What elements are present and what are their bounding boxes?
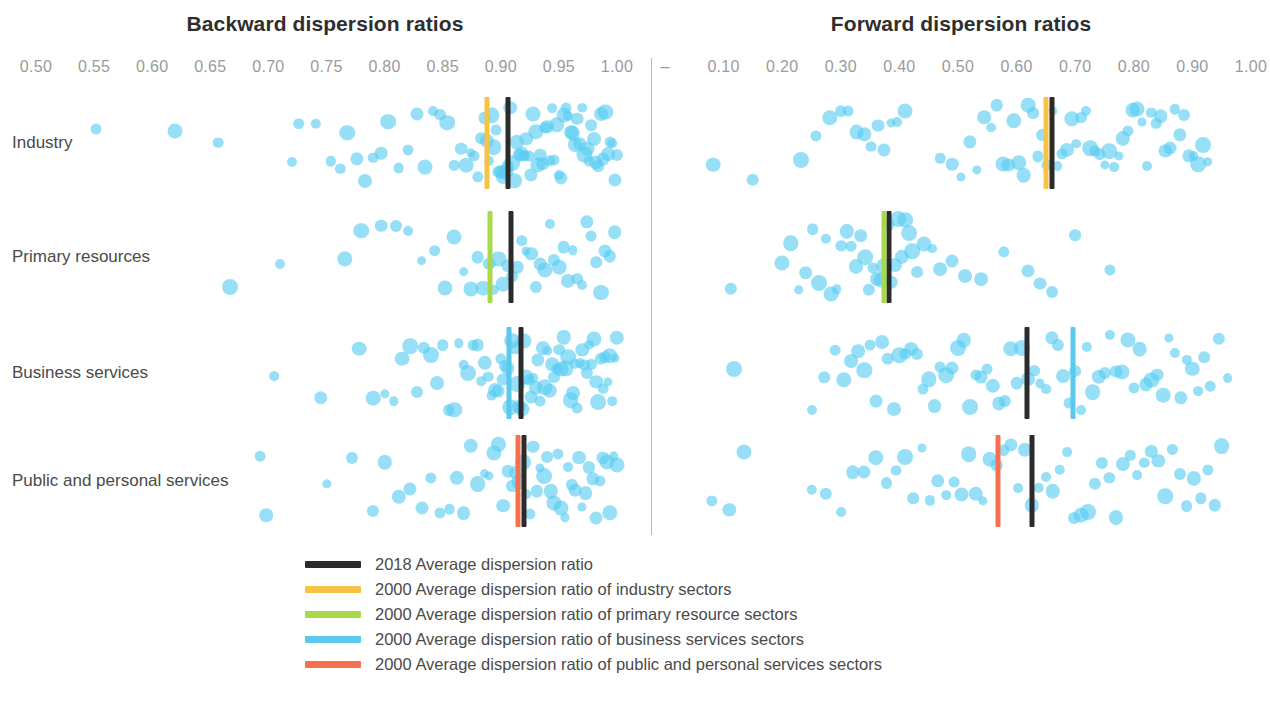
data-point bbox=[572, 451, 586, 465]
data-point bbox=[886, 118, 895, 127]
axis-tick: 0.75 bbox=[310, 58, 342, 76]
data-point bbox=[1021, 98, 1036, 113]
data-point bbox=[255, 451, 266, 462]
data-point bbox=[314, 391, 328, 405]
data-point bbox=[534, 258, 547, 271]
data-point bbox=[568, 246, 577, 255]
data-point bbox=[517, 333, 532, 348]
data-point bbox=[881, 218, 894, 231]
data-point bbox=[1074, 508, 1089, 523]
data-point bbox=[551, 363, 562, 374]
data-point bbox=[496, 499, 510, 513]
data-point bbox=[1203, 157, 1212, 166]
data-point bbox=[1057, 369, 1071, 383]
data-point bbox=[917, 384, 928, 395]
data-point bbox=[423, 347, 439, 363]
data-point bbox=[1064, 111, 1079, 126]
data-point bbox=[411, 107, 424, 120]
data-point bbox=[496, 277, 511, 292]
data-point bbox=[470, 477, 486, 493]
data-point bbox=[476, 281, 491, 296]
data-point bbox=[577, 147, 592, 162]
data-point bbox=[1158, 488, 1174, 504]
data-point bbox=[1182, 149, 1195, 162]
data-point bbox=[950, 340, 966, 356]
data-point bbox=[1018, 443, 1032, 457]
data-point bbox=[598, 383, 609, 394]
data-point bbox=[1069, 229, 1081, 241]
data-point bbox=[497, 373, 510, 386]
data-point bbox=[963, 135, 976, 148]
data-point bbox=[513, 148, 526, 161]
data-point bbox=[526, 107, 541, 122]
data-point bbox=[501, 160, 514, 173]
data-point bbox=[563, 462, 573, 472]
data-point bbox=[986, 379, 1000, 393]
data-point bbox=[968, 487, 982, 501]
data-point bbox=[858, 128, 871, 141]
data-point bbox=[865, 339, 876, 350]
data-point bbox=[528, 124, 543, 139]
data-point bbox=[556, 330, 571, 345]
data-point bbox=[956, 172, 965, 181]
data-point bbox=[523, 150, 534, 161]
data-point bbox=[1080, 505, 1096, 521]
data-point bbox=[866, 141, 877, 152]
data-point bbox=[1170, 104, 1180, 114]
legend-label: 2000 Average dispersion ratio of primary… bbox=[375, 605, 798, 624]
data-point bbox=[539, 122, 551, 134]
data-point bbox=[489, 285, 499, 295]
data-point bbox=[1146, 108, 1156, 118]
data-point bbox=[577, 280, 587, 290]
data-point bbox=[375, 219, 388, 232]
data-point bbox=[793, 152, 809, 168]
data-point bbox=[1013, 483, 1023, 493]
data-point bbox=[476, 376, 486, 386]
data-point bbox=[1151, 118, 1162, 129]
data-point bbox=[1139, 378, 1152, 391]
data-point bbox=[890, 465, 901, 476]
data-point bbox=[486, 390, 497, 401]
data-point bbox=[507, 270, 519, 282]
data-point bbox=[1189, 151, 1199, 161]
data-point bbox=[484, 156, 494, 166]
data-point bbox=[1181, 355, 1191, 365]
data-point bbox=[888, 258, 902, 272]
data-point bbox=[544, 484, 558, 498]
data-point bbox=[1120, 332, 1135, 347]
data-point bbox=[403, 226, 413, 236]
row-label-public-and-personal-services: Public and personal services bbox=[12, 471, 228, 491]
data-point bbox=[1137, 118, 1146, 127]
data-point bbox=[572, 403, 583, 414]
chart-root: Backward dispersion ratios Forward dispe… bbox=[0, 0, 1270, 701]
data-point bbox=[806, 405, 816, 415]
average-marker-black bbox=[522, 435, 527, 527]
data-point bbox=[404, 482, 417, 495]
data-point bbox=[488, 384, 502, 398]
data-point bbox=[447, 230, 462, 245]
data-point bbox=[447, 402, 462, 417]
data-point bbox=[589, 156, 602, 169]
data-point bbox=[583, 461, 595, 473]
data-point bbox=[554, 362, 569, 377]
legend-label: 2000 Average dispersion ratio of industr… bbox=[375, 580, 731, 599]
data-point bbox=[581, 367, 593, 379]
data-point bbox=[443, 405, 455, 417]
data-point bbox=[1156, 388, 1171, 403]
data-point bbox=[608, 226, 622, 240]
data-point bbox=[575, 343, 588, 356]
axis-tick: 0.85 bbox=[427, 58, 459, 76]
data-point bbox=[1075, 112, 1087, 124]
data-point bbox=[890, 212, 906, 228]
data-point bbox=[584, 340, 594, 350]
data-point bbox=[545, 219, 555, 229]
data-point bbox=[536, 463, 545, 472]
data-point bbox=[435, 508, 446, 519]
data-point bbox=[935, 361, 946, 372]
data-point bbox=[269, 371, 279, 381]
data-point bbox=[352, 341, 367, 356]
data-point bbox=[908, 492, 920, 504]
data-point bbox=[346, 452, 358, 464]
x-axis-forward: –0.100.200.300.400.500.600.700.800.901.0… bbox=[652, 58, 1270, 82]
data-point bbox=[471, 339, 484, 352]
